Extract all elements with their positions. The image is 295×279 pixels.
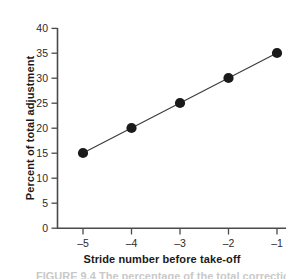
data-point xyxy=(126,123,136,133)
data-point-markers xyxy=(78,48,282,158)
x-tick-label-minus1: –1 xyxy=(262,238,292,249)
x-tick-label-minus5: –5 xyxy=(68,238,98,249)
chart-canvas xyxy=(0,0,295,279)
x-axis-ticks xyxy=(83,229,277,235)
data-point xyxy=(78,148,88,158)
y-axis-ticks xyxy=(52,28,58,228)
data-point xyxy=(272,48,282,58)
x-axis-title: Stride number before take-off xyxy=(38,253,286,265)
y-axis-title: Percent of total adjustment xyxy=(24,28,36,228)
figure-line-chart: 40 35 30 25 20 15 10 5 0 –5 –4 –3 –2 –1 … xyxy=(0,0,295,279)
x-tick-label-minus2: –2 xyxy=(214,238,244,249)
x-tick-label-minus3: –3 xyxy=(165,238,195,249)
data-point xyxy=(175,98,185,108)
figure-caption-partial: FIGURE 9.4 The percentage of the total c… xyxy=(36,271,286,279)
x-tick-label-minus4: –4 xyxy=(117,238,147,249)
data-point xyxy=(223,73,233,83)
